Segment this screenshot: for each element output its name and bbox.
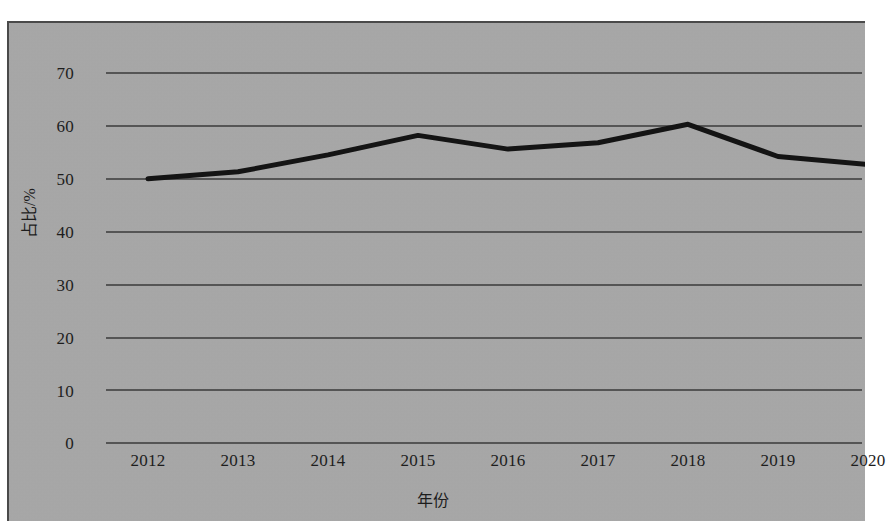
- gridlines: [106, 73, 862, 443]
- x-axis-title: 年份: [0, 487, 865, 511]
- x-tick-label-2020: 2020: [833, 451, 890, 471]
- x-tick-label-2015: 2015: [383, 451, 453, 471]
- x-tick-label-2014: 2014: [293, 451, 363, 471]
- data-series-line: [148, 124, 865, 178]
- x-tick-label-2013: 2013: [203, 451, 273, 471]
- x-tick-label-2017: 2017: [563, 451, 633, 471]
- y-axis-title: 占比/%: [16, 188, 40, 238]
- x-tick-label-2012: 2012: [113, 451, 183, 471]
- x-tick-label-2016: 2016: [473, 451, 543, 471]
- x-tick-label-2018: 2018: [653, 451, 723, 471]
- x-tick-label-2019: 2019: [743, 451, 813, 471]
